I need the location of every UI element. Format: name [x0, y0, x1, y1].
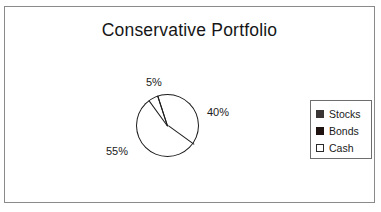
- legend-item-stocks[interactable]: Stocks: [316, 106, 371, 122]
- legend-item-cash[interactable]: Cash: [316, 140, 371, 156]
- pie-chart[interactable]: [136, 94, 199, 157]
- pie-slice-label-bonds: 55%: [106, 145, 128, 157]
- legend-swatch-bonds: [316, 127, 324, 135]
- pie-slice-label-stocks: 40%: [207, 106, 229, 118]
- chart-title: Conservative Portfolio: [5, 20, 374, 41]
- legend-swatch-cash: [316, 144, 324, 152]
- legend-item-bonds[interactable]: Bonds: [316, 123, 371, 139]
- chart-legend: Stocks Bonds Cash: [310, 100, 372, 159]
- pie-slice-label-cash: 5%: [146, 76, 162, 88]
- legend-label-stocks: Stocks: [329, 109, 361, 120]
- legend-label-cash: Cash: [329, 143, 354, 154]
- legend-label-bonds: Bonds: [329, 126, 359, 137]
- chart-frame: Conservative Portfolio 5% 40% 55% Stocks…: [4, 6, 375, 203]
- legend-swatch-stocks: [316, 110, 324, 118]
